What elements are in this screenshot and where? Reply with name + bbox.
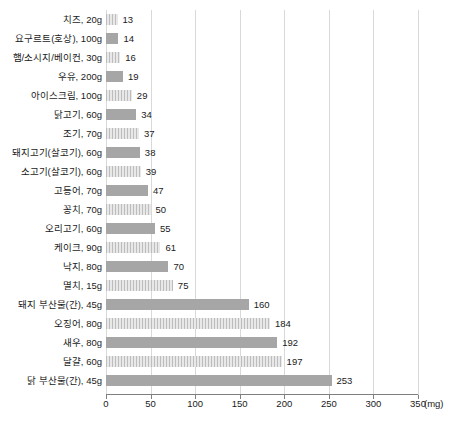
category-label: 조기, 70g bbox=[63, 124, 102, 143]
value-label: 197 bbox=[287, 352, 303, 371]
bar bbox=[106, 356, 282, 367]
bar-row: 우유, 200g19 bbox=[106, 67, 418, 86]
bar bbox=[106, 52, 120, 63]
bar bbox=[106, 185, 148, 196]
value-label: 14 bbox=[123, 29, 134, 48]
plot-area: 치즈, 20g13요구르트(호상), 100g14햄/소시지/베이컨, 30g1… bbox=[106, 10, 418, 395]
category-label: 햄/소시지/베이컨, 30g bbox=[13, 48, 102, 67]
x-tick-label: 150 bbox=[220, 398, 260, 409]
category-label: 닭고기, 60g bbox=[54, 105, 102, 124]
x-axis-line bbox=[106, 394, 418, 395]
bar-row: 오징어, 80g184 bbox=[106, 314, 418, 333]
bar-row: 멸치, 15g75 bbox=[106, 276, 418, 295]
category-label: 고등어, 70g bbox=[54, 181, 102, 200]
bar-row: 조기, 70g37 bbox=[106, 124, 418, 143]
category-label: 소고기(살코기), 60g bbox=[21, 162, 102, 181]
gridline bbox=[418, 10, 419, 395]
category-label: 돼지 부산물(간), 45g bbox=[18, 295, 102, 314]
category-label: 요구르트(호상), 100g bbox=[15, 29, 102, 48]
category-label: 낙지, 80g bbox=[63, 257, 102, 276]
bar-row: 돼지고기(살코기), 60g38 bbox=[106, 143, 418, 162]
value-label: 16 bbox=[125, 48, 136, 67]
value-label: 37 bbox=[144, 124, 155, 143]
bar bbox=[106, 261, 168, 272]
value-label: 39 bbox=[146, 162, 157, 181]
value-label: 47 bbox=[153, 181, 164, 200]
category-label: 멸치, 15g bbox=[63, 276, 102, 295]
category-label: 돼지고기(살코기), 60g bbox=[12, 143, 102, 162]
bar bbox=[106, 90, 132, 101]
bar-row: 아이스크림, 100g29 bbox=[106, 86, 418, 105]
bar-row: 돼지 부산물(간), 45g160 bbox=[106, 295, 418, 314]
bar-row: 햄/소시지/베이컨, 30g16 bbox=[106, 48, 418, 67]
category-label: 닭 부산물(간), 45g bbox=[27, 371, 102, 390]
bar bbox=[106, 71, 123, 82]
value-label: 29 bbox=[137, 86, 148, 105]
bar-row: 닭 부산물(간), 45g253 bbox=[106, 371, 418, 390]
category-label: 아이스크림, 100g bbox=[31, 86, 102, 105]
value-label: 50 bbox=[156, 200, 167, 219]
bar-row: 달걀, 60g197 bbox=[106, 352, 418, 371]
bar-row: 닭고기, 60g34 bbox=[106, 105, 418, 124]
category-label: 치즈, 20g bbox=[63, 10, 102, 29]
value-label: 13 bbox=[123, 10, 134, 29]
x-tick-label: 0 bbox=[86, 398, 126, 409]
bar-row: 케이크, 90g61 bbox=[106, 238, 418, 257]
bar bbox=[106, 242, 160, 253]
x-tick-label: 50 bbox=[131, 398, 171, 409]
category-label: 새우, 80g bbox=[63, 333, 102, 352]
bar bbox=[106, 375, 332, 386]
bar bbox=[106, 109, 136, 120]
category-label: 케이크, 90g bbox=[54, 238, 102, 257]
bar-row: 요구르트(호상), 100g14 bbox=[106, 29, 418, 48]
x-tick-label: 200 bbox=[264, 398, 304, 409]
bar bbox=[106, 147, 140, 158]
category-label: 꽁치, 70g bbox=[63, 200, 102, 219]
category-label: 오리고기, 60g bbox=[45, 219, 102, 238]
category-label: 우유, 200g bbox=[58, 67, 102, 86]
bar bbox=[106, 204, 151, 215]
x-tick-label: 300 bbox=[353, 398, 393, 409]
value-label: 38 bbox=[145, 143, 156, 162]
bar-row: 꽁치, 70g50 bbox=[106, 200, 418, 219]
bar-chart: 치즈, 20g13요구르트(호상), 100g14햄/소시지/베이컨, 30g1… bbox=[0, 0, 455, 438]
bar bbox=[106, 128, 139, 139]
value-label: 184 bbox=[275, 314, 291, 333]
bar bbox=[106, 318, 270, 329]
bar bbox=[106, 337, 277, 348]
x-axis-unit-label: (mg) bbox=[424, 398, 444, 409]
value-label: 34 bbox=[141, 105, 152, 124]
bar-row: 치즈, 20g13 bbox=[106, 10, 418, 29]
bar-row: 오리고기, 60g55 bbox=[106, 219, 418, 238]
bar bbox=[106, 166, 141, 177]
bar bbox=[106, 33, 118, 44]
bar bbox=[106, 280, 173, 291]
x-tick-label: 100 bbox=[175, 398, 215, 409]
bar bbox=[106, 14, 118, 25]
bar bbox=[106, 299, 249, 310]
value-label: 253 bbox=[337, 371, 353, 390]
bar-row: 고등어, 70g47 bbox=[106, 181, 418, 200]
x-tick-label: 250 bbox=[309, 398, 349, 409]
bar bbox=[106, 223, 155, 234]
category-label: 달걀, 60g bbox=[63, 352, 102, 371]
value-label: 160 bbox=[254, 295, 270, 314]
value-label: 75 bbox=[178, 276, 189, 295]
value-label: 55 bbox=[160, 219, 171, 238]
bar-row: 낙지, 80g70 bbox=[106, 257, 418, 276]
value-label: 70 bbox=[173, 257, 184, 276]
value-label: 192 bbox=[282, 333, 298, 352]
bar-row: 새우, 80g192 bbox=[106, 333, 418, 352]
bar-row: 소고기(살코기), 60g39 bbox=[106, 162, 418, 181]
category-label: 오징어, 80g bbox=[54, 314, 102, 333]
value-label: 61 bbox=[165, 238, 176, 257]
value-label: 19 bbox=[128, 67, 139, 86]
